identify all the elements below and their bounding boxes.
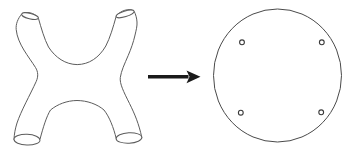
puncture-top-right (319, 40, 324, 45)
arrow-head (187, 70, 201, 83)
surface-body-outline (14, 10, 142, 144)
right-arrow-icon (148, 70, 201, 83)
disk-boundary-circle (214, 9, 342, 142)
puncture-bottom-left (238, 110, 243, 115)
topology-diagram (0, 0, 364, 152)
four-holed-sphere-surface (14, 8, 142, 145)
punctured-disk (214, 9, 342, 142)
figure-canvas (0, 0, 364, 152)
puncture-top-left (240, 40, 245, 45)
puncture-bottom-right (319, 110, 324, 115)
